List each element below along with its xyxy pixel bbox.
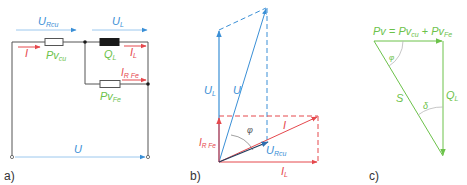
circuit-panel: URcu UL I Pvcu QL IL IR Fe PvFe — [4, 15, 150, 183]
u-rcu-label: U — [38, 15, 46, 27]
node — [146, 82, 150, 86]
s-vector — [374, 41, 443, 156]
svg-text:IL: IL — [130, 46, 137, 59]
svg-text:QL: QL — [446, 89, 459, 102]
u-rcu-phasor — [219, 142, 268, 162]
svg-text:URcu: URcu — [266, 144, 287, 157]
phasor-panel: φ UL U IR Fe I IL URcu b) — [190, 8, 318, 183]
terminal — [146, 155, 149, 158]
diagram-canvas: URcu UL I Pvcu QL IL IR Fe PvFe — [0, 0, 467, 185]
svg-text:URcu: URcu — [38, 15, 59, 28]
resistor-pv-fe — [100, 81, 120, 88]
inductor-q-l — [100, 39, 119, 46]
svg-text:IL: IL — [281, 165, 288, 178]
i-label: I — [25, 47, 28, 59]
node — [83, 40, 87, 44]
delta-arc — [418, 107, 443, 115]
svg-text:PvFe: PvFe — [100, 90, 121, 103]
phi-label-c: φ — [389, 53, 394, 62]
u-l-label: U — [112, 15, 120, 27]
u-l-phasor-label: U — [204, 84, 212, 96]
svg-text:UL: UL — [204, 84, 216, 97]
circuit-wire — [12, 42, 45, 157]
svg-text:IR Fe: IR Fe — [121, 67, 139, 79]
u-label: U — [74, 143, 82, 155]
resistor-pv-cu — [45, 39, 63, 46]
svg-text:Pvcu: Pvcu — [46, 49, 66, 62]
u-rcu-phasor-label: U — [266, 144, 274, 156]
power-triangle-panel: Pv = Pvcu + PvFe φ δ S QL c) — [369, 25, 459, 183]
svg-text:IR Fe: IR Fe — [199, 137, 216, 149]
terminal — [10, 155, 13, 158]
s-label: S — [396, 92, 404, 104]
panel-b-label: b) — [190, 169, 201, 183]
i-phasor-label: I — [283, 119, 286, 131]
svg-text:QL: QL — [104, 48, 117, 61]
panel-a-label: a) — [4, 169, 15, 183]
u-phasor-label: U — [233, 84, 241, 96]
phi-label: φ — [247, 125, 253, 135]
power-formula: Pv = Pvcu + PvFe — [373, 25, 452, 38]
svg-text:UL: UL — [112, 15, 124, 28]
panel-c-label: c) — [369, 169, 379, 183]
